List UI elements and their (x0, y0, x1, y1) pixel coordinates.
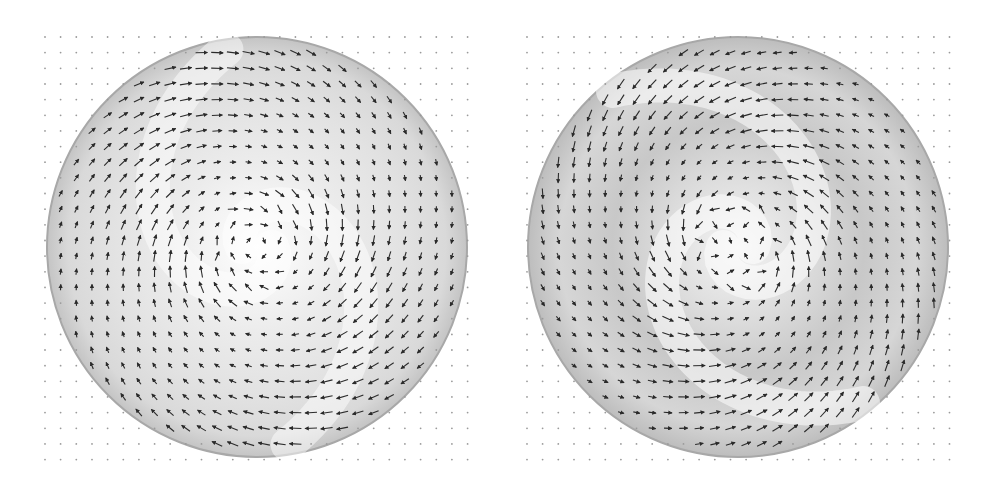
vector-field-panel-right (0, 0, 992, 479)
spiral-vector-field-right (0, 0, 992, 479)
